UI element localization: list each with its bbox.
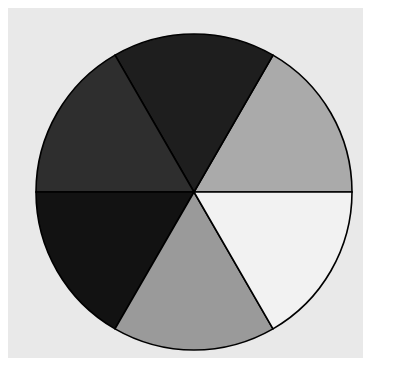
pie-chart bbox=[0, 0, 395, 385]
pie-slice-group bbox=[36, 34, 352, 350]
figure-root bbox=[0, 0, 395, 385]
